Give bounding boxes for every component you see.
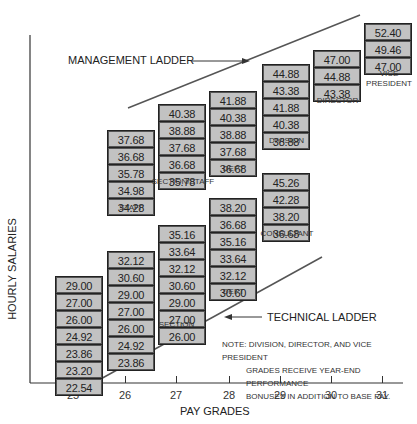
salary-cell: 33.64	[210, 250, 256, 266]
salary-cell: 52.40	[365, 24, 411, 40]
salary-cell: 22.54	[56, 379, 102, 395]
salary-cell: 36.68	[210, 216, 256, 232]
technical-arrow-head	[224, 314, 232, 320]
x-tick	[382, 376, 383, 383]
x-axis-label: PAY GRADES	[180, 405, 250, 417]
salary-cell: 26.00	[56, 311, 102, 327]
salary-cell: 44.88	[263, 65, 309, 81]
stack-tech-26: 32.12 30.60 29.00 27.00 26.00 24.92 23.8…	[107, 251, 155, 371]
salary-cell: 42.28	[263, 191, 309, 207]
salary-cell: 24.92	[56, 328, 102, 344]
management-ladder-label: MANAGEMENT LADDER	[68, 54, 194, 66]
salary-cell: 35.16	[159, 226, 205, 242]
salary-cell: 38.88	[159, 122, 205, 138]
label-dept-management: DEPT	[209, 164, 258, 173]
x-tick-label: 31	[372, 389, 392, 401]
label-tech-section: SECTION	[152, 320, 201, 329]
salary-cell: 27.00	[108, 303, 154, 319]
y-axis-label: HOURLY SALARIES	[6, 214, 18, 324]
x-tick	[125, 376, 126, 383]
note-line-1: NOTE: DIVISION, DIRECTOR, AND VICE PRESI…	[222, 338, 417, 364]
x-tick	[280, 376, 281, 383]
x-tick	[331, 376, 332, 383]
x-tick-label: 29	[270, 389, 290, 401]
note-line-2: GRADES RECEIVE YEAR-END PERFORMANCE	[222, 364, 417, 390]
salary-cell: 36.68	[108, 148, 154, 164]
stack-vice-president: 52.40 49.46 47.00	[364, 23, 412, 75]
x-tick-label: 30	[321, 389, 341, 401]
salary-cell: 23.86	[108, 354, 154, 370]
salary-cell: 36.68	[159, 156, 205, 172]
salary-cell: 37.68	[159, 139, 205, 155]
salary-cell: 41.88	[263, 99, 309, 115]
salary-cell: 32.12	[108, 252, 154, 268]
salary-cell: 40.38	[159, 105, 205, 121]
label-consultant: CONSULTANT	[252, 229, 322, 238]
salary-cell: 32.12	[210, 267, 256, 283]
salary-cell: 38.20	[263, 208, 309, 224]
x-tick-label: 26	[115, 389, 135, 401]
salary-cell: 32.12	[159, 260, 205, 276]
label-director: DIRECTOR	[313, 96, 362, 105]
salary-cell: 47.00	[314, 51, 360, 67]
salary-cell: 23.20	[56, 362, 102, 378]
salary-cell: 45.26	[263, 174, 309, 190]
stack-tech-25: 29.00 27.00 26.00 24.92 23.86 23.20 22.5…	[55, 276, 103, 396]
label-tech-dept: DEPT	[209, 287, 258, 296]
stack-director: 47.00 44.88 43.38	[313, 50, 361, 102]
salary-cell: 30.60	[108, 269, 154, 285]
salary-cell: 43.38	[263, 82, 309, 98]
salary-cell: 35.16	[210, 233, 256, 249]
salary-cell: 44.88	[314, 68, 360, 84]
salary-cell: 33.64	[159, 243, 205, 259]
technical-ladder-label: TECHNICAL LADDER	[267, 311, 377, 323]
salary-cell: 26.00	[159, 328, 205, 344]
salary-cell: 40.38	[210, 109, 256, 125]
salary-cell: 38.20	[210, 199, 256, 215]
salary-cell: 38.88	[210, 126, 256, 142]
salary-cell: 37.68	[108, 131, 154, 147]
x-tick	[229, 376, 230, 383]
salary-cell: 29.00	[56, 277, 102, 293]
x-tick	[176, 376, 177, 383]
label-vice-president: VICE PRESIDENT	[357, 69, 417, 89]
label-staff: STAFF	[107, 203, 156, 212]
salary-cell: 29.00	[108, 286, 154, 302]
salary-cell: 40.38	[263, 116, 309, 132]
salary-cell: 23.86	[56, 345, 102, 361]
x-tick-label: 28	[219, 389, 239, 401]
salary-cell: 24.92	[108, 337, 154, 353]
stack-tech-dept: 38.20 36.68 35.16 33.64 32.12 30.60	[209, 198, 257, 301]
salary-cell: 37.68	[210, 143, 256, 159]
label-division: DIVISION	[262, 136, 311, 145]
salary-cell: 29.00	[159, 294, 205, 310]
salary-cell: 41.88	[210, 92, 256, 108]
salary-cell: 30.60	[159, 277, 205, 293]
salary-cell: 26.00	[108, 320, 154, 336]
salary-cell: 49.46	[365, 41, 411, 57]
x-tick-label: 27	[166, 389, 186, 401]
salary-cell: 27.00	[56, 294, 102, 310]
label-section-staff: SECTION/STAFF	[148, 177, 218, 186]
